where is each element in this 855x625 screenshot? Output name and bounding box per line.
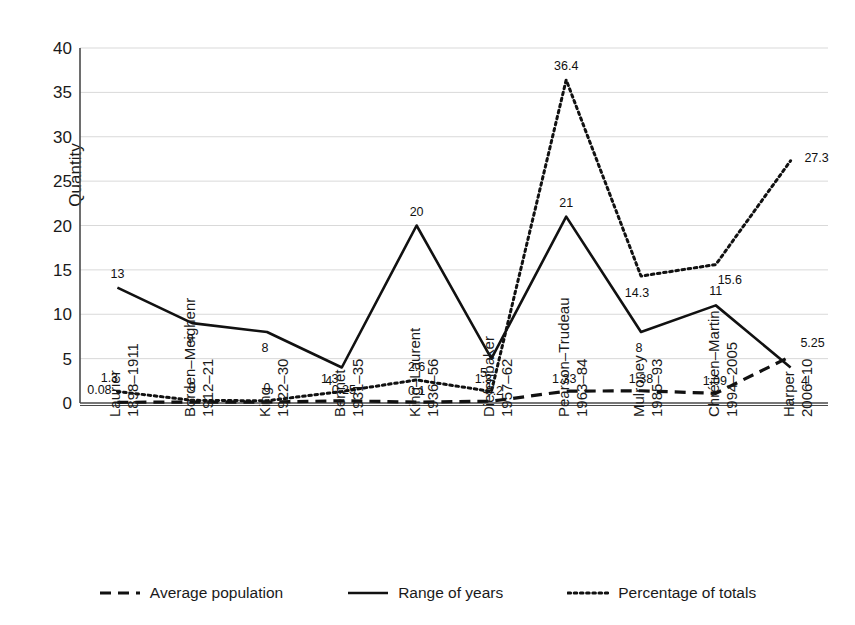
- x-tick-line: 1963–84: [573, 297, 591, 417]
- data-label: 9: [187, 333, 194, 346]
- data-label: 36.4: [554, 60, 578, 73]
- x-tick-label: Mulroney1985–93: [630, 355, 665, 417]
- data-label: 20: [410, 205, 424, 218]
- data-label: 0: [189, 381, 196, 394]
- data-label: 8: [636, 342, 643, 355]
- legend-item[interactable]: Percentage of totals: [567, 584, 756, 602]
- data-label: 0.2: [486, 385, 503, 398]
- legend-label: Average population: [150, 584, 283, 602]
- x-tick-label: Harper2006–10: [780, 359, 815, 417]
- data-label: 2.6: [408, 361, 425, 374]
- legend-label: Range of years: [398, 584, 503, 602]
- data-label: 21: [559, 196, 573, 209]
- x-tick-line: Mulroney: [630, 355, 648, 417]
- legend-swatch-dotted-icon: [567, 587, 609, 599]
- x-tick-line: 2006–10: [797, 359, 815, 417]
- x-tick-line: 1994–2005: [722, 310, 740, 417]
- data-label: 0: [264, 382, 271, 395]
- line-chart: Quantity 0510152025303540 Laurier1898–19…: [0, 0, 855, 625]
- x-tick-line: 1922–30: [274, 359, 292, 417]
- legend-item[interactable]: Range of years: [347, 584, 503, 602]
- series-line-2: [117, 80, 790, 401]
- data-label: 1.3: [101, 372, 118, 385]
- chart-legend: Average populationRange of yearsPercenta…: [0, 578, 855, 608]
- legend-swatch-dashed-icon: [99, 587, 141, 599]
- x-tick-line: 1985–93: [648, 355, 666, 417]
- x-tick-line: Chrétien–Martin: [705, 310, 723, 417]
- x-tick-line: Borden–Meighenr: [181, 298, 199, 417]
- legend-swatch-solid-icon: [347, 587, 389, 599]
- legend-label: Percentage of totals: [618, 584, 756, 602]
- x-tick-line: 1957–62: [498, 336, 516, 417]
- series-line-1: [117, 217, 790, 368]
- data-label: 5.25: [800, 337, 824, 350]
- x-tick-label: Pearson–Trudeau1963–84: [555, 297, 590, 417]
- x-tick-line: Harper: [780, 359, 798, 417]
- data-label: 0.1: [408, 385, 425, 398]
- x-tick-label: Borden–Meighenr1912–21: [181, 298, 216, 417]
- x-tick-line: 1936–56: [423, 328, 441, 417]
- data-label: 1.33: [552, 373, 576, 386]
- x-tick-line: 1898–1911: [124, 343, 142, 417]
- data-label: 1.3: [321, 373, 338, 386]
- x-tick-line: Pearson–Trudeau: [555, 297, 573, 417]
- legend-item[interactable]: Average population: [99, 584, 283, 602]
- x-tick-label: Chrétien–Martin1994–2005: [705, 310, 740, 417]
- data-label: 0.08: [87, 384, 111, 397]
- data-label: 14.3: [625, 287, 649, 300]
- data-label: 4: [801, 374, 808, 387]
- series-line-0: [117, 356, 790, 402]
- data-label: 13: [110, 267, 124, 280]
- data-label: 27.3: [804, 151, 828, 164]
- data-label: 15.6: [718, 273, 742, 286]
- data-label: 11: [709, 285, 722, 298]
- data-label: 1.38: [629, 373, 653, 386]
- x-tick-line: 1912–21: [199, 298, 217, 417]
- data-label: 1.3: [475, 373, 492, 386]
- x-tick-label: King1922–30: [256, 359, 291, 417]
- data-label: 8: [262, 342, 269, 355]
- data-label: 1.09: [703, 375, 727, 388]
